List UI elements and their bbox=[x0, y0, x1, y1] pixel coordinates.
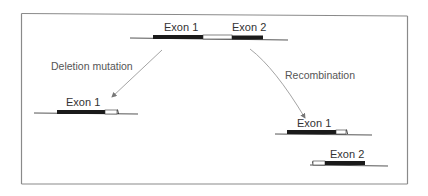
recombination-label: Recombination bbox=[285, 69, 355, 81]
exon1-block bbox=[153, 35, 203, 39]
intron-block bbox=[203, 35, 232, 39]
dna-strand bbox=[275, 134, 372, 135]
recombination-result-exon2: Exon 2 bbox=[310, 148, 388, 166]
exon1-block bbox=[57, 110, 105, 114]
deletion-mutation-label: Deletion mutation bbox=[51, 60, 133, 72]
exon2-block bbox=[325, 161, 365, 165]
deletion-result-gene: Exon 1 bbox=[34, 96, 138, 114]
arrow-icon bbox=[112, 50, 162, 97]
exon1-label: Exon 1 bbox=[164, 21, 198, 33]
breakpoint-tick bbox=[347, 130, 348, 135]
truncated-block bbox=[336, 130, 346, 134]
exon2-label: Exon 2 bbox=[330, 148, 364, 160]
recombination-result-exon1: Exon 1 bbox=[275, 117, 372, 135]
gene-diagram: Exon 1 Exon 2 Deletion mutation Recombin… bbox=[0, 0, 428, 196]
recombination-path: Recombination bbox=[250, 49, 355, 118]
exon1-label: Exon 1 bbox=[297, 117, 331, 129]
exon2-label: Exon 2 bbox=[232, 21, 266, 33]
truncated-block bbox=[105, 110, 117, 114]
exon1-block bbox=[287, 130, 336, 134]
arrow-icon bbox=[250, 49, 305, 118]
truncated-block bbox=[313, 161, 325, 165]
exon1-label: Exon 1 bbox=[66, 96, 100, 108]
exon2-block bbox=[232, 36, 263, 40]
original-gene: Exon 1 Exon 2 bbox=[130, 21, 288, 40]
deletion-path: Deletion mutation bbox=[51, 50, 162, 97]
